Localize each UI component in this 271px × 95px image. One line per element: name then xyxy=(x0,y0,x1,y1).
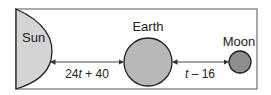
sun-label: Sun xyxy=(22,30,45,45)
moon-circle xyxy=(229,51,251,73)
earth-moon-distance-label: t – 16 xyxy=(185,67,215,81)
moon-label: Moon xyxy=(223,34,256,49)
earth-circle xyxy=(124,38,172,86)
sun-earth-moon-diagram: Sun Earth Moon 24t + 40 t – 16 xyxy=(0,0,271,95)
sun-earth-distance-label: 24t + 40 xyxy=(65,67,109,81)
earth-label: Earth xyxy=(132,19,163,34)
